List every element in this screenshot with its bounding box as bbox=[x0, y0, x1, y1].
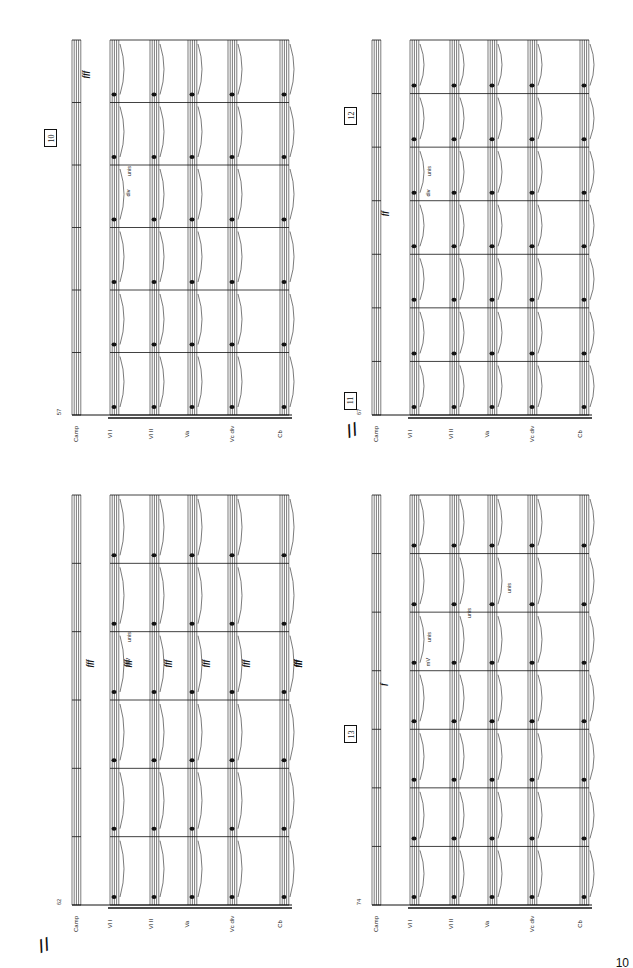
page-number: 10 bbox=[616, 956, 629, 968]
dynamic-marking: ff bbox=[380, 211, 389, 216]
rehearsal-number: 10 bbox=[46, 134, 55, 142]
instrument-label: Cb bbox=[577, 430, 583, 438]
system-top-left: CampVl IVl IIVaVc divCb5710fffdivunis bbox=[60, 30, 320, 445]
rehearsal-mark: 11 bbox=[344, 392, 357, 410]
system-break-right: // bbox=[343, 419, 360, 441]
instrument-label: Vl I bbox=[107, 920, 113, 929]
performance-direction: mV bbox=[125, 658, 131, 666]
instrument-label: Camp bbox=[73, 916, 79, 932]
rehearsal-mark: 12 bbox=[344, 107, 357, 125]
rehearsal-number: 12 bbox=[346, 112, 355, 120]
dynamic-marking: fff bbox=[81, 71, 90, 79]
measure-number: 74 bbox=[356, 899, 362, 906]
performance-direction: unis bbox=[126, 165, 132, 175]
dynamic-marking: fff bbox=[293, 660, 302, 668]
performance-direction: div bbox=[125, 189, 131, 196]
rehearsal-mark: 13 bbox=[344, 725, 357, 743]
instrument-label: Vl II bbox=[148, 429, 154, 439]
measure-number: 67 bbox=[356, 409, 362, 416]
instrument-label: Cb bbox=[277, 920, 283, 928]
instrument-label: Vl I bbox=[107, 430, 113, 439]
instrument-label: Vc div bbox=[529, 426, 535, 442]
system-bottom-left: CampVl IVl IIVaVc divCb62fffffffffffffff… bbox=[60, 485, 320, 935]
instrument-label: Vl II bbox=[448, 429, 454, 439]
system-bottom-right: CampVl IVl IIVaVc divCb7413fmVunisunisun… bbox=[360, 485, 620, 935]
performance-direction: unis bbox=[126, 632, 132, 642]
performance-direction: unis bbox=[426, 165, 432, 175]
instrument-label: Vl II bbox=[448, 919, 454, 929]
dynamic-marking: fff bbox=[85, 660, 94, 668]
instrument-label: Vc div bbox=[229, 426, 235, 442]
measure-number: 57 bbox=[56, 409, 62, 416]
dynamic-marking: f bbox=[379, 683, 388, 686]
instrument-label: Cb bbox=[577, 920, 583, 928]
performance-direction: unis bbox=[506, 583, 512, 593]
rehearsal-number: 11 bbox=[346, 397, 355, 405]
system-top-right: CampVl IVl IIVaVc divCb671112ffdivunis bbox=[360, 30, 620, 445]
performance-direction: div bbox=[425, 189, 431, 196]
instrument-label: Camp bbox=[373, 426, 379, 442]
instrument-label: Vc div bbox=[229, 916, 235, 932]
instrument-label: Va bbox=[484, 921, 490, 928]
instrument-label: Camp bbox=[373, 916, 379, 932]
instrument-label: Va bbox=[184, 431, 190, 438]
performance-direction: unis bbox=[466, 608, 472, 618]
instrument-label: Vl I bbox=[407, 430, 413, 439]
dynamic-marking: fff bbox=[163, 660, 172, 668]
performance-direction: unis bbox=[426, 632, 432, 642]
instrument-label: Vc div bbox=[529, 916, 535, 932]
rehearsal-mark: 10 bbox=[44, 129, 57, 147]
measure-number: 62 bbox=[56, 899, 62, 906]
instrument-label: Camp bbox=[73, 426, 79, 442]
instrument-label: Va bbox=[184, 921, 190, 928]
dynamic-marking: fff bbox=[201, 660, 210, 668]
dynamic-marking: fff bbox=[241, 660, 250, 668]
instrument-label: Vl I bbox=[407, 920, 413, 929]
instrument-label: Cb bbox=[277, 430, 283, 438]
performance-direction: mV bbox=[425, 658, 431, 666]
rehearsal-number: 13 bbox=[346, 730, 355, 738]
instrument-label: Vl II bbox=[148, 919, 154, 929]
instrument-label: Va bbox=[484, 431, 490, 438]
